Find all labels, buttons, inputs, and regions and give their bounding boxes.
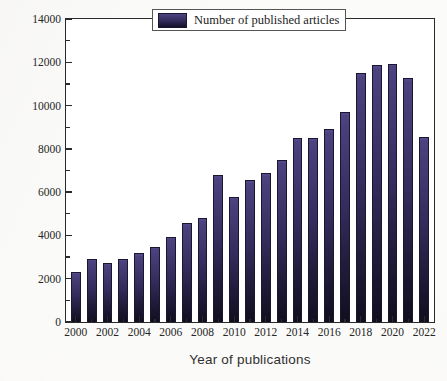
bar-2001 xyxy=(87,259,97,322)
legend-swatch-published-articles xyxy=(158,13,187,28)
bar-2018 xyxy=(356,73,366,322)
bar-2019 xyxy=(372,65,382,322)
x-tick-label-2022: 2022 xyxy=(413,326,436,338)
y-tick-label-2000: 2000 xyxy=(38,273,61,285)
x-tick-2022 xyxy=(424,316,425,322)
x-minor-tick-2021 xyxy=(408,319,409,323)
y-minor-tick-1000 xyxy=(66,300,70,301)
y-tick-label-10000: 10000 xyxy=(32,100,61,112)
y-minor-tick-5000 xyxy=(66,213,70,214)
x-tick-label-2010: 2010 xyxy=(223,326,246,338)
x-tick-2008 xyxy=(202,316,203,322)
y-tick-8000 xyxy=(66,148,72,149)
y-tick-label-4000: 4000 xyxy=(38,229,61,241)
x-minor-tick-2007 xyxy=(186,319,187,323)
y-tick-4000 xyxy=(66,235,72,236)
x-tick-2012 xyxy=(265,316,266,322)
bar-2017 xyxy=(340,112,350,322)
bar-2005 xyxy=(150,247,160,322)
bar-2011 xyxy=(245,180,255,322)
y-tick-6000 xyxy=(66,191,72,192)
y-tick-label-6000: 6000 xyxy=(38,186,61,198)
plot-frame: 0200040006000800010000120001400020002002… xyxy=(65,18,435,323)
x-tick-label-2020: 2020 xyxy=(381,326,404,338)
x-minor-tick-2013 xyxy=(281,319,282,323)
x-tick-2018 xyxy=(360,316,361,322)
bar-2012 xyxy=(261,173,271,322)
y-minor-tick-9000 xyxy=(66,127,70,128)
y-tick-0 xyxy=(66,321,72,322)
bar-2007 xyxy=(182,223,192,322)
y-minor-tick-3000 xyxy=(66,256,70,257)
x-tick-2010 xyxy=(234,316,235,322)
x-minor-tick-2019 xyxy=(376,319,377,323)
x-tick-label-2008: 2008 xyxy=(191,326,214,338)
x-tick-label-2018: 2018 xyxy=(349,326,372,338)
x-tick-label-2000: 2000 xyxy=(64,326,87,338)
x-tick-2002 xyxy=(107,316,108,322)
x-tick-2000 xyxy=(75,316,76,322)
y-tick-10000 xyxy=(66,105,72,106)
bar-2003 xyxy=(118,259,128,322)
bar-2008 xyxy=(198,218,208,322)
bar-2000 xyxy=(71,272,81,322)
bar-2006 xyxy=(166,237,176,322)
y-minor-tick-7000 xyxy=(66,170,70,171)
x-tick-2014 xyxy=(297,316,298,322)
y-tick-label-14000: 14000 xyxy=(32,13,61,25)
x-minor-tick-2005 xyxy=(154,319,155,323)
x-tick-2004 xyxy=(139,316,140,322)
x-minor-tick-2017 xyxy=(344,319,345,323)
y-tick-label-8000: 8000 xyxy=(38,143,61,155)
x-minor-tick-2009 xyxy=(218,319,219,323)
y-tick-label-0: 0 xyxy=(55,316,61,328)
bar-2002 xyxy=(103,263,113,322)
x-tick-label-2016: 2016 xyxy=(318,326,341,338)
x-tick-2020 xyxy=(392,316,393,322)
y-tick-2000 xyxy=(66,278,72,279)
y-tick-14000 xyxy=(66,18,72,19)
bar-2020 xyxy=(388,64,398,322)
x-tick-2006 xyxy=(170,316,171,322)
y-tick-label-12000: 12000 xyxy=(32,56,61,68)
x-minor-tick-2011 xyxy=(249,319,250,323)
bar-2022 xyxy=(419,137,429,322)
x-minor-tick-2003 xyxy=(123,319,124,323)
x-tick-label-2002: 2002 xyxy=(96,326,119,338)
bar-2013 xyxy=(277,160,287,322)
x-minor-tick-2015 xyxy=(313,319,314,323)
chart-figure: Number of published articles 02000400060… xyxy=(0,0,447,381)
legend-label-published-articles: Number of published articles xyxy=(194,13,339,28)
plot-area xyxy=(66,19,434,322)
chart-legend: Number of published articles xyxy=(152,9,346,31)
bar-2014 xyxy=(293,138,303,322)
bar-2004 xyxy=(134,253,144,322)
x-tick-2016 xyxy=(329,316,330,322)
x-tick-label-2014: 2014 xyxy=(286,326,309,338)
x-axis-title: Year of publications xyxy=(65,352,435,367)
y-minor-tick-13000 xyxy=(66,40,70,41)
y-tick-12000 xyxy=(66,62,72,63)
x-minor-tick-2001 xyxy=(91,319,92,323)
bar-2010 xyxy=(229,197,239,322)
x-tick-label-2006: 2006 xyxy=(159,326,182,338)
bar-2021 xyxy=(403,78,413,322)
bar-2015 xyxy=(308,138,318,322)
x-tick-label-2012: 2012 xyxy=(254,326,277,338)
bar-2016 xyxy=(324,129,334,322)
x-tick-label-2004: 2004 xyxy=(128,326,151,338)
y-minor-tick-11000 xyxy=(66,83,70,84)
bar-2009 xyxy=(213,175,223,322)
